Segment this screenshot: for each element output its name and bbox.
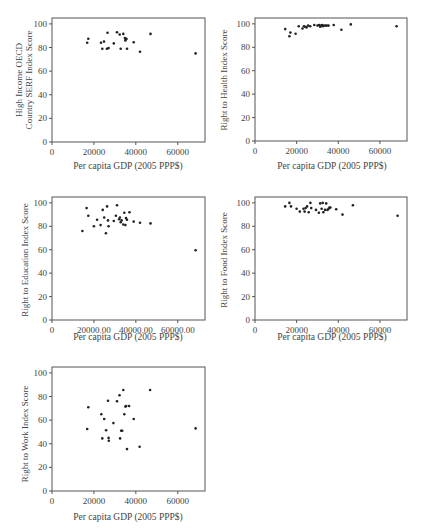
- data-point: [313, 24, 316, 27]
- data-point: [138, 445, 141, 448]
- data-point: [103, 40, 106, 43]
- y-tick-label: 60: [241, 245, 251, 255]
- x-axis-label: Per capita GDP (2005 PPP$): [73, 161, 182, 172]
- data-point: [123, 413, 126, 416]
- y-axis-label-line2: Country SERF Index Score: [24, 31, 34, 130]
- data-point: [119, 216, 122, 219]
- x-tick-label: 0: [253, 325, 258, 335]
- data-point: [139, 50, 142, 53]
- data-point: [288, 35, 291, 38]
- data-point: [306, 205, 309, 208]
- x-tick-label: 20000: [285, 146, 308, 156]
- x-axis-label: Per capita GDP (2005 PPP$): [277, 161, 386, 172]
- plot-frame: [52, 367, 205, 491]
- y-tick-label: 100: [34, 19, 48, 29]
- y-tick-label: 20: [38, 292, 48, 302]
- plot-frame: [52, 18, 205, 142]
- y-tick-label: 0: [43, 137, 48, 147]
- scatter-plot: 0204060801000200004000060000 High Income…: [0, 0, 215, 175]
- y-axis-label: Right to Work Index Score: [20, 386, 30, 483]
- y-tick-label: 80: [241, 42, 251, 52]
- data-points: [81, 204, 197, 252]
- data-point: [301, 27, 304, 30]
- y-tick-label: 0: [43, 486, 48, 496]
- data-point: [107, 219, 110, 222]
- data-point: [340, 28, 343, 31]
- data-point: [295, 207, 298, 210]
- plot-frame: [52, 197, 205, 320]
- data-point: [107, 437, 110, 440]
- data-point: [194, 249, 197, 252]
- data-point: [124, 224, 127, 227]
- data-point: [86, 42, 89, 45]
- y-tick-label: 60: [241, 66, 251, 76]
- data-point: [325, 202, 328, 205]
- data-point: [149, 33, 152, 36]
- data-point: [126, 448, 129, 451]
- data-point: [128, 405, 131, 408]
- y-tick-label: 0: [246, 315, 251, 325]
- data-point: [100, 413, 103, 416]
- data-point: [87, 214, 90, 217]
- plot-frame: [255, 197, 407, 320]
- y-tick-label: 100: [34, 368, 48, 378]
- y-tick-label: 80: [38, 43, 48, 53]
- data-point: [294, 33, 297, 36]
- y-tick-label: 60: [38, 245, 48, 255]
- data-point: [87, 406, 90, 409]
- x-axis-label: Per capita GDP (2005 PPP$): [73, 332, 182, 343]
- y-axis-label: Right to Food Index Score: [219, 212, 229, 308]
- data-point: [352, 204, 355, 207]
- y-axis-label: Right to Health Index Score: [219, 30, 229, 131]
- data-point: [118, 394, 121, 397]
- x-tick-label: 60000: [167, 496, 190, 506]
- y-tick-label: 100: [237, 198, 251, 208]
- data-point: [149, 389, 152, 392]
- data-point: [103, 418, 106, 421]
- data-point: [96, 219, 99, 222]
- data-point: [113, 220, 116, 223]
- y-tick-label: 80: [38, 392, 48, 402]
- y-tick-label: 40: [38, 439, 48, 449]
- data-point: [290, 205, 293, 208]
- chart-right-to-health: 0204060801000200004000060000 Right to He…: [215, 0, 425, 175]
- data-point: [395, 25, 398, 28]
- data-point: [396, 214, 399, 217]
- y-tick-label: 20: [241, 292, 251, 302]
- data-point: [116, 400, 119, 403]
- data-point: [350, 23, 353, 26]
- axes: 0204060801000200004000060000: [237, 18, 408, 156]
- data-point: [132, 41, 135, 44]
- data-point: [119, 47, 122, 50]
- data-point: [318, 212, 321, 215]
- data-point: [122, 33, 125, 36]
- data-point: [297, 25, 300, 28]
- data-point: [123, 212, 126, 215]
- x-tick-label: 0: [50, 325, 55, 335]
- x-tick-label: 20000: [83, 496, 106, 506]
- data-point: [284, 28, 287, 31]
- data-point: [320, 207, 323, 210]
- data-point: [86, 428, 89, 431]
- data-point: [284, 205, 287, 208]
- data-point: [309, 202, 312, 205]
- data-point: [105, 429, 108, 432]
- chart-right-to-work: 0204060801000200004000060000 Right to Wo…: [0, 350, 215, 529]
- y-tick-label: 20: [38, 462, 48, 472]
- data-point: [321, 202, 324, 205]
- data-point: [81, 230, 84, 233]
- data-point: [289, 31, 292, 34]
- data-point: [319, 202, 322, 205]
- x-tick-label: 20000: [83, 147, 106, 157]
- data-point: [107, 399, 110, 402]
- data-points: [284, 202, 399, 217]
- data-point: [120, 219, 123, 222]
- y-axis-label: Right to Education Index Score: [20, 203, 30, 316]
- data-point: [132, 220, 135, 223]
- chart-oecd-serf: 0204060801000200004000060000 High Income…: [0, 0, 215, 175]
- data-point: [310, 207, 313, 210]
- data-point: [100, 42, 103, 45]
- data-point: [101, 437, 104, 440]
- axes: 0204060801000200004000060000: [34, 367, 206, 506]
- data-points: [86, 31, 197, 55]
